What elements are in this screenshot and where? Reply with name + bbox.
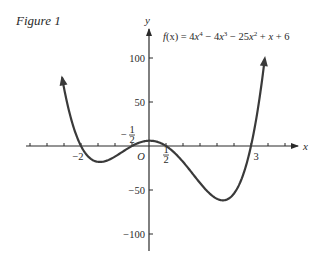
y-tick-label: −100 — [123, 229, 145, 240]
origin-label: O — [137, 151, 145, 162]
x-tick-label: −2 — [72, 151, 83, 162]
y-tick-label: 100 — [129, 53, 145, 64]
x-fraction-label: −12 — [121, 124, 135, 145]
curve-arrowhead-icon — [260, 56, 268, 66]
curve-arrowhead-icon — [60, 75, 68, 86]
x-tick-label: 3 — [253, 151, 258, 162]
axes: x y — [26, 14, 308, 251]
y-tick-label: −50 — [129, 185, 145, 196]
y-tick-label: 50 — [135, 97, 146, 108]
function-plot: x y 10050−50−100−2O3−1212 — [0, 0, 319, 263]
function-curve — [62, 60, 264, 200]
svg-text:2: 2 — [129, 134, 134, 145]
y-axis-label: y — [144, 14, 150, 26]
x-axis-label: x — [302, 140, 308, 152]
svg-text:−: − — [121, 129, 127, 140]
svg-text:2: 2 — [163, 154, 168, 165]
